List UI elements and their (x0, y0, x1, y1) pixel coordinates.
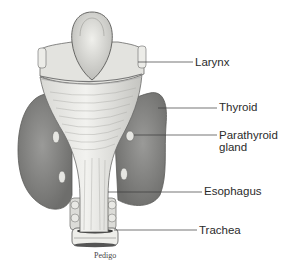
larynx (38, 12, 146, 85)
label-thyroid: Thyroid (219, 101, 257, 113)
label-larynx: Larynx (195, 56, 230, 68)
label-parathyroid: Parathyroid (219, 129, 278, 141)
anatomy-diagram: Larynx Thyroid Parathyroid gland Esophag… (0, 0, 293, 272)
artist-credit: Pedigo (94, 251, 116, 260)
label-trachea: Trachea (199, 224, 241, 236)
label-parathyroid-line2: gland (219, 141, 247, 153)
label-esophagus: Esophagus (204, 185, 262, 197)
